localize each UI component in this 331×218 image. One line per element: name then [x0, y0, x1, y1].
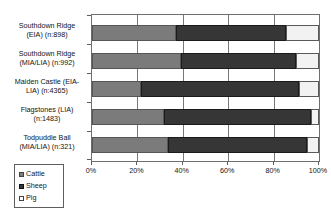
x-axis-tick-label: 20% — [116, 166, 156, 175]
legend-item-sheep: Sheep — [19, 180, 60, 192]
table-row — [92, 137, 319, 153]
y-axis-label-line: LIA) (n:4365) — [1, 87, 93, 96]
x-axis-tick — [227, 161, 228, 165]
y-axis-category-label: Southdown Ridge (EIA) (n:898) — [1, 22, 93, 39]
bar-segment-sheep — [168, 137, 307, 153]
x-axis-tick-label: 100% — [298, 166, 331, 175]
table-row — [92, 25, 319, 41]
table-row — [92, 109, 319, 125]
y-axis-tick — [87, 131, 91, 132]
x-axis-tick — [91, 161, 92, 165]
y-axis-tick — [87, 15, 91, 16]
y-axis-tick — [87, 102, 91, 103]
y-axis-category-label: Flagstones (LIA) (n:1483) — [1, 106, 93, 123]
bar-segment-cattle — [92, 109, 164, 125]
legend-label: Pig — [26, 194, 36, 202]
y-axis-tick — [87, 159, 91, 160]
legend-swatch-icon — [19, 196, 24, 201]
y-axis-label-line: (EIA) (n:898) — [1, 31, 93, 40]
y-axis-tick — [87, 44, 91, 45]
x-axis-tick — [182, 161, 183, 165]
bar-segment-pig — [307, 137, 320, 153]
stacked-bar-chart: Southdown Ridge (EIA) (n:898) Southdown … — [0, 0, 331, 218]
bar-segment-pig — [299, 81, 319, 97]
chart-legend: Cattle Sheep Pig — [14, 164, 64, 208]
plot-area — [91, 14, 320, 162]
legend-label: Cattle — [26, 170, 45, 178]
bar-segment-cattle — [92, 81, 141, 97]
bar-segment-pig — [311, 109, 319, 125]
x-axis-tick — [273, 161, 274, 165]
x-axis-tick-label: 60% — [207, 166, 247, 175]
bar-segment-cattle — [92, 137, 168, 153]
y-axis-label-line: (n:1483) — [1, 115, 93, 124]
y-axis-category-label: Maiden Castle (EIA- LIA) (n:4365) — [1, 78, 93, 95]
bar-segment-cattle — [92, 25, 176, 41]
bar-segment-pig — [286, 25, 319, 41]
bar-segment-sheep — [176, 25, 286, 41]
y-axis-category-label: Todpuddle Ball (MIA/LIA) (n:321) — [1, 134, 93, 151]
y-axis-category-label: Southdown Ridge (MIA/LIA) (n:992) — [1, 50, 93, 67]
bar-segment-sheep — [164, 109, 311, 125]
y-axis-tick — [87, 73, 91, 74]
bar-segment-pig — [296, 53, 319, 69]
x-axis-tick — [318, 161, 319, 165]
y-axis-label-line: (MIA/LIA) (n:992) — [1, 59, 93, 68]
bar-segment-cattle — [92, 53, 181, 69]
legend-item-pig: Pig — [19, 192, 60, 204]
legend-swatch-icon — [19, 184, 24, 189]
y-axis-label-line: (MIA/LIA) (n:321) — [1, 143, 93, 152]
x-axis-tick-label: 0% — [71, 166, 111, 175]
table-row — [92, 81, 319, 97]
legend-swatch-icon — [19, 172, 24, 177]
legend-label: Sheep — [26, 182, 47, 190]
bar-segment-sheep — [141, 81, 299, 97]
legend-item-cattle: Cattle — [19, 168, 60, 180]
x-axis-tick — [136, 161, 137, 165]
table-row — [92, 53, 319, 69]
bar-segment-sheep — [181, 53, 297, 69]
x-axis-tick-label: 80% — [253, 166, 293, 175]
x-axis-tick-label: 40% — [162, 166, 202, 175]
